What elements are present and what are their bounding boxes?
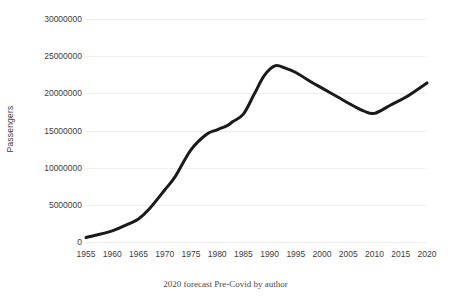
x-tick-label: 1955 — [77, 249, 96, 259]
x-tick-label: 2005 — [339, 249, 358, 259]
y-tick-label: 25000000 — [16, 52, 82, 61]
chart-caption: 2020 forecast Pre-Covid by author — [0, 279, 451, 289]
y-tick-label: 15000000 — [16, 126, 82, 135]
y-axis-title-label: Passengers — [5, 106, 15, 153]
x-tick-label: 2000 — [313, 249, 332, 259]
x-tick-label: 1985 — [234, 249, 253, 259]
x-tick-label: 2015 — [391, 249, 410, 259]
y-tick-label: 20000000 — [16, 89, 82, 98]
line-chart: Passengers 05000000100000001500000020000… — [0, 0, 451, 298]
y-tick-label: 0 — [16, 238, 82, 247]
x-tick-label: 1965 — [129, 249, 148, 259]
y-tick-label: 5000000 — [16, 201, 82, 210]
series-path — [86, 65, 427, 237]
x-tick-label: 1995 — [286, 249, 305, 259]
plot-area — [86, 19, 427, 242]
x-tick-label: 2010 — [365, 249, 384, 259]
x-tick-label: 1960 — [103, 249, 122, 259]
x-tick-label: 1970 — [155, 249, 174, 259]
y-tick-label: 10000000 — [16, 163, 82, 172]
x-axis-tick-labels: 1955196019651970197519801985199019952000… — [0, 249, 451, 263]
x-tick-label: 1990 — [260, 249, 279, 259]
x-tick-label: 2020 — [418, 249, 437, 259]
y-tick-label: 30000000 — [16, 15, 82, 24]
series-line-passengers — [76, 9, 437, 252]
x-tick-label: 1980 — [208, 249, 227, 259]
x-tick-label: 1975 — [181, 249, 200, 259]
